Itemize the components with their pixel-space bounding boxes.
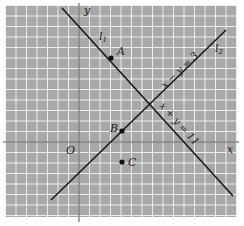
y-axis-label: y [83, 4, 91, 17]
point-b-label: B [109, 122, 118, 135]
x-axis-label: x [227, 143, 234, 156]
point-a [108, 55, 113, 60]
point-b [119, 128, 124, 133]
origin-label: O [66, 144, 75, 157]
point-c [119, 159, 124, 164]
point-c-label: C [128, 156, 137, 169]
diagram-canvas: y x O l1 l2 A B C x − y = 3 x + y = 11 [0, 0, 244, 226]
point-a-label: A [116, 45, 125, 58]
coordinate-diagram: y x O l1 l2 A B C x − y = 3 x + y = 11 [0, 0, 244, 226]
